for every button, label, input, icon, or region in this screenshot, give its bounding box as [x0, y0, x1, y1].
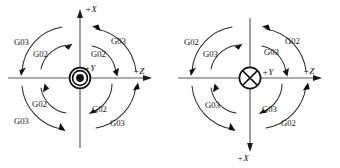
left-diagram: +X +Z +Y G03 G02 G03 G02 G03 G02 G03 G02 — [8, 4, 152, 148]
right-bl-outer-label: G03 — [205, 100, 220, 110]
right-diagram: +X +Z +Y G02 G03 G02 G03 G03 G02 G03 — [178, 18, 322, 163]
left-center-label: +Y — [84, 63, 96, 73]
right-tl-outer-label: G02 — [184, 37, 199, 47]
left-tr-inner-label: G02 — [91, 49, 106, 59]
left-tl-outer-label: G03 — [14, 37, 29, 47]
left-bl-outer-label: G03 — [14, 116, 29, 126]
left-axis-x-label: +X — [85, 4, 97, 14]
left-bl-inner-label: G02 — [32, 99, 47, 109]
left-br-outer-label: G03 — [110, 118, 125, 128]
right-tl-inner-label: G03 — [203, 49, 218, 59]
right-br-inner-label: G03 — [262, 104, 277, 114]
left-br-inner-label: G02 — [92, 104, 107, 114]
right-br-outer-label: G02 — [281, 118, 296, 128]
right-center-label: +Y — [262, 67, 274, 77]
left-axis-z-label: +Z — [133, 66, 145, 76]
left-tl-inner-label: G02 — [33, 49, 48, 59]
right-axis-z-label: +Z — [303, 66, 315, 76]
right-tr-inner-label: G03 — [264, 47, 279, 57]
right-tr-outer-label: G02 — [285, 36, 300, 46]
left-tr-outer-label: G03 — [111, 36, 126, 46]
right-center-into-page-symbol — [239, 67, 260, 88]
circular-interpolation-figure: +X +Z +Y G03 G02 G03 G02 G03 G02 G03 G02 — [0, 0, 340, 168]
right-axis-x-label: +X — [237, 153, 249, 163]
figure-canvas: +X +Z +Y G03 G02 G03 G02 G03 G02 G03 G02 — [0, 0, 340, 168]
